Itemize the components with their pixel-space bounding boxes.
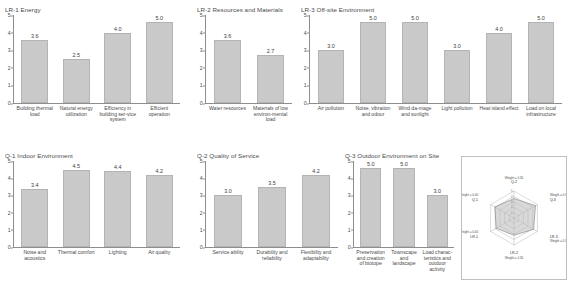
x-axis-labels: Service abilityDurability and reliabilit… <box>206 250 338 274</box>
bar-value-label: 4.0 <box>495 26 503 32</box>
x-tick-label: Natural energy utilization <box>56 106 98 134</box>
radar-axis-label: Weight = 0.30 <box>550 193 566 197</box>
radar-axis-label: Q-1 <box>472 198 478 202</box>
x-tick-label: Efficiency in building ser-vice system <box>97 106 139 134</box>
bar <box>21 40 48 103</box>
radar-scale-label: 5 <box>511 189 513 193</box>
bar <box>360 22 387 103</box>
figure-sheet: LR-1 Energy0123453.62.54.05.0Building th… <box>0 0 569 284</box>
bar-value-label: 4.5 <box>73 163 81 169</box>
bar <box>402 22 429 103</box>
x-axis-labels: Preservation and creation of biotopeTown… <box>354 250 454 280</box>
bar-item: 3.0 <box>206 161 250 247</box>
bar-item: 3.0 <box>310 15 352 103</box>
x-axis-labels: Building thermal loadNatural energy util… <box>14 106 180 134</box>
radar-axis-label: Weight = 0.40 <box>462 193 478 197</box>
bar-item: 3.4 <box>14 161 56 247</box>
y-axis: 012345 <box>196 161 205 247</box>
x-tick-label: Building thermal load <box>14 106 56 134</box>
bar-value-label: 5.0 <box>411 15 419 21</box>
radar-axis-label: Weight = 0.30 <box>505 256 524 260</box>
panel-title: LR-1 Energy <box>5 6 180 13</box>
y-axis: 012345 <box>300 15 309 103</box>
x-axis-line <box>13 103 180 104</box>
bar <box>258 187 286 247</box>
bar <box>486 33 513 103</box>
panel-title: LR-2 Resources and Materials <box>197 6 292 13</box>
y-axis: 012345 <box>344 161 353 247</box>
bar-item: 4.2 <box>139 161 181 247</box>
x-tick-label: Noise and acoustics <box>14 250 56 274</box>
bar-item: 3.0 <box>421 161 454 247</box>
bar-group: 3.03.54.2 <box>206 161 338 247</box>
bar <box>63 170 90 247</box>
bar-group: 3.44.54.44.2 <box>14 161 180 247</box>
bar-group: 3.62.54.05.0 <box>14 15 180 103</box>
bar <box>104 33 131 103</box>
bar-value-label: 4.4 <box>114 164 122 170</box>
plot-area: 0123453.03.54.2 <box>196 161 338 247</box>
x-axis-line <box>309 103 562 104</box>
bar-value-label: 3.5 <box>268 180 276 186</box>
bar <box>63 59 90 103</box>
radar-axis-label: Weight = 0.40 <box>462 230 478 234</box>
bar <box>257 55 285 103</box>
bar <box>427 195 448 247</box>
x-tick-label: Load charac-teristics and outdoor activi… <box>421 250 454 280</box>
x-tick-label: Heat island effect <box>478 106 520 134</box>
bar <box>21 189 48 247</box>
bar-item: 5.0 <box>354 161 387 247</box>
radar-chart-panel: Q-2Weight = 0.30Q-3Weight = 0.30LR-3Weig… <box>461 156 567 280</box>
bar-item: 4.0 <box>97 15 139 103</box>
bar-value-label: 4.2 <box>156 168 164 174</box>
x-axis-line <box>13 247 180 248</box>
bar-value-label: 5.0 <box>369 15 377 21</box>
x-tick-label: Durability and reliability <box>250 250 294 274</box>
panel-title: Q-2 Quality of Service <box>197 152 338 159</box>
bar-item: 4.2 <box>294 161 338 247</box>
bar-group: 3.05.05.03.04.05.0 <box>310 15 562 103</box>
y-axis: 012345 <box>4 15 13 103</box>
panel-lr3: LR-3 Off-site Environment0123453.05.05.0… <box>300 6 562 134</box>
x-tick-label: Flexibility and adaptability <box>294 250 338 274</box>
bar-value-label: 3.0 <box>434 188 442 194</box>
bar-value-label: 3.0 <box>224 188 232 194</box>
bar-value-label: 3.0 <box>327 43 335 49</box>
x-tick-label: Load on local infrastructure <box>520 106 562 134</box>
x-axis-line <box>205 103 292 104</box>
bar-value-label: 4.0 <box>114 26 122 32</box>
radar-svg: Q-2Weight = 0.30Q-3Weight = 0.30LR-3Weig… <box>462 157 566 279</box>
bar-item: 5.0 <box>520 15 562 103</box>
bar <box>444 50 471 103</box>
bar-value-label: 5.0 <box>400 161 408 167</box>
bar <box>104 171 131 247</box>
bar <box>146 22 173 103</box>
x-tick-label: Air quality <box>139 250 181 274</box>
bar-item: 3.6 <box>206 15 249 103</box>
bar-item: 3.6 <box>14 15 56 103</box>
x-tick-label: Thermal comfort <box>56 250 98 274</box>
bar-value-label: 3.6 <box>31 33 39 39</box>
x-tick-label: Wind da-mage and sunlight <box>394 106 436 134</box>
x-tick-label: Townscape and landscape <box>387 250 420 280</box>
x-tick-label: Water resources <box>206 106 249 134</box>
bar-item: 4.0 <box>478 15 520 103</box>
x-axis-labels: Noise and acousticsThermal comfortLighti… <box>14 250 180 274</box>
panel-title: LR-3 Off-site Environment <box>301 6 562 13</box>
bar-value-label: 5.0 <box>367 161 375 167</box>
plot-area: 0123453.62.7 <box>196 15 292 103</box>
bar-value-label: 4.2 <box>312 168 320 174</box>
radar-axis-label: Q-2 <box>511 180 517 184</box>
bar <box>393 168 414 247</box>
bar-item: 5.0 <box>387 161 420 247</box>
bar <box>214 195 242 247</box>
bar-item: 2.7 <box>249 15 292 103</box>
bar-value-label: 2.7 <box>267 48 275 54</box>
radar-axis-label: Q-3 <box>550 198 556 202</box>
panel-q2: Q-2 Quality of Service0123453.03.54.2Ser… <box>196 152 338 274</box>
bar-item: 3.0 <box>436 15 478 103</box>
radar-axis-label: Weight = 0.30 <box>550 239 566 243</box>
bar-value-label: 3.4 <box>31 182 39 188</box>
x-tick-label: Light pollution <box>436 106 478 134</box>
bar-group: 5.05.03.0 <box>354 161 454 247</box>
